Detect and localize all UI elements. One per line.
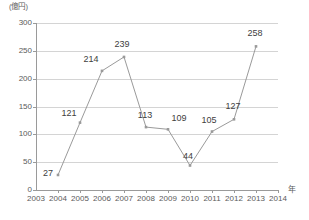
x-axis-tick-mark <box>190 190 191 193</box>
data-point-marker <box>167 128 170 131</box>
data-point-value-label: 121 <box>61 108 76 118</box>
x-axis-tick-mark <box>146 190 147 193</box>
data-point-marker <box>101 70 104 73</box>
data-point-value-label: 109 <box>171 113 186 123</box>
x-axis-tick-label: 2010 <box>181 194 199 204</box>
x-axis-tick-mark <box>256 190 257 193</box>
y-axis-tick-mark <box>33 23 36 24</box>
x-axis-tick-mark <box>168 190 169 193</box>
data-point-marker <box>123 56 126 59</box>
x-axis-tick-label: 2006 <box>93 194 111 204</box>
data-point-value-label: 27 <box>43 168 53 178</box>
x-axis-tick-labels: 2003200420052006200720082009201020112012… <box>0 194 309 206</box>
x-axis-tick-mark <box>102 190 103 193</box>
data-point-marker <box>145 126 148 129</box>
y-axis-tick-mark <box>33 134 36 135</box>
y-axis-tick-mark <box>33 190 36 191</box>
data-point-marker <box>233 118 236 121</box>
x-axis-tick-label: 2014 <box>269 194 287 204</box>
x-axis-tick-mark <box>58 190 59 193</box>
data-point-value-label: 127 <box>225 101 240 111</box>
data-point-value-label: 214 <box>83 54 98 64</box>
x-axis-tick-label: 2003 <box>27 194 45 204</box>
x-axis-tick-label: 2012 <box>225 194 243 204</box>
x-axis-tick-label: 2013 <box>247 194 265 204</box>
x-axis-tick-label: 2011 <box>203 194 220 204</box>
y-axis-tick-mark <box>33 162 36 163</box>
y-axis-tick-mark <box>33 51 36 52</box>
data-series-line <box>0 0 309 220</box>
x-axis-tick-label: 2009 <box>159 194 177 204</box>
x-axis-tick-mark <box>234 190 235 193</box>
x-axis-tick-mark <box>80 190 81 193</box>
data-point-value-label: 239 <box>114 39 129 49</box>
data-point-value-label: 44 <box>183 151 193 161</box>
data-point-marker <box>255 45 258 48</box>
data-point-value-label: 113 <box>138 110 152 120</box>
x-axis-tick-label: 2007 <box>115 194 133 204</box>
data-point-marker <box>79 121 82 124</box>
x-axis-tick-mark <box>124 190 125 193</box>
y-axis-tick-mark <box>33 107 36 108</box>
x-axis-tick-label: 2008 <box>137 194 155 204</box>
x-axis-tick-mark <box>278 190 279 193</box>
data-point-value-label: 258 <box>247 28 262 38</box>
line-chart: (億円) 050100150200250300 2712121423911310… <box>0 0 309 220</box>
data-point-marker <box>211 130 214 133</box>
data-point-marker <box>57 174 60 177</box>
data-point-marker <box>189 164 192 167</box>
x-axis-tick-label: 2005 <box>71 194 89 204</box>
x-axis-caption: 年 <box>288 185 296 195</box>
y-axis-tick-mark <box>33 79 36 80</box>
data-point-value-label: 105 <box>201 115 216 125</box>
x-axis-tick-label: 2004 <box>49 194 67 204</box>
x-axis-tick-mark <box>212 190 213 193</box>
